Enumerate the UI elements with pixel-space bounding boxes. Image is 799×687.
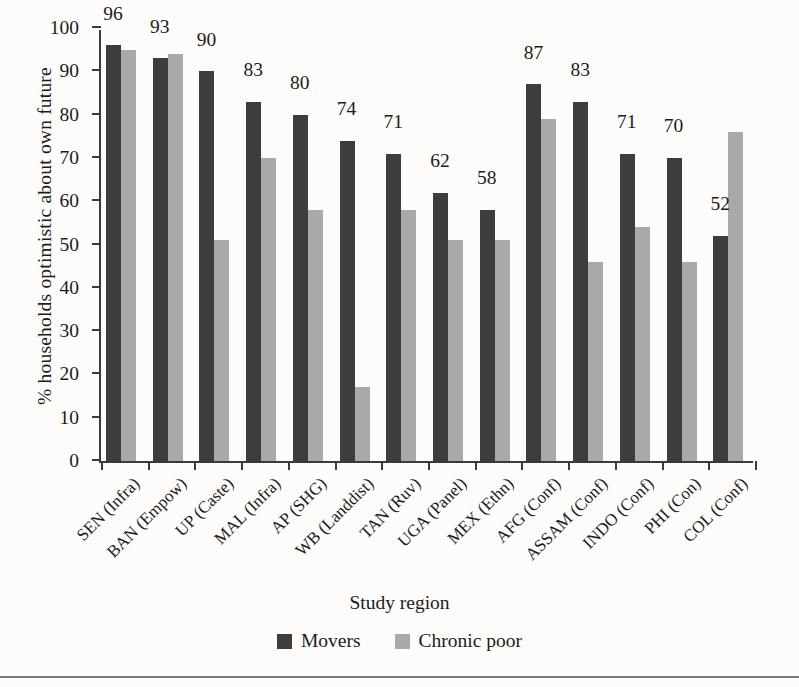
- bar-group: 83: [568, 30, 615, 461]
- y-tick-label: 70: [60, 146, 80, 168]
- legend-swatch-movers: [277, 634, 292, 649]
- bar-group: 90: [194, 30, 241, 461]
- bar-value-label: 58: [477, 168, 497, 188]
- bar-group: 71: [615, 30, 662, 461]
- bar-group: 83: [241, 30, 288, 461]
- x-tick: [148, 461, 150, 470]
- x-tick: [335, 461, 337, 470]
- bottom-rule: [0, 676, 799, 678]
- bar-group: 80: [288, 30, 335, 461]
- y-tick: 100: [92, 26, 101, 28]
- x-tick: [708, 461, 710, 470]
- bar-chronic-poor: [308, 210, 323, 461]
- bar-movers: [106, 45, 121, 461]
- bar-movers: [153, 58, 168, 461]
- bar-chronic-poor: [448, 240, 463, 461]
- y-tick-label: 90: [60, 60, 80, 82]
- bar-value-label: 74: [337, 99, 357, 119]
- bar-value-label: 90: [197, 29, 217, 49]
- bar-value-label: 62: [430, 151, 450, 171]
- legend-label: Chronic poor: [419, 630, 522, 652]
- bar-group: 96: [101, 30, 148, 461]
- y-axis-title: % households optimistic about own future: [34, 1, 56, 471]
- bar-group: 74: [335, 30, 382, 461]
- x-tick: [615, 461, 617, 470]
- bar-movers: [386, 154, 401, 461]
- bar-chronic-poor: [355, 387, 370, 461]
- y-tick-label: 60: [60, 190, 80, 212]
- bar-movers: [199, 71, 214, 461]
- x-tick: [194, 461, 196, 470]
- bar-group: 93: [148, 30, 195, 461]
- bar-chronic-poor: [728, 132, 743, 461]
- bar-movers: [293, 115, 308, 461]
- bar-chronic-poor: [541, 119, 556, 461]
- bar-chronic-poor: [682, 262, 697, 461]
- y-tick: 40: [92, 286, 101, 288]
- bar-chronic-poor: [168, 54, 183, 461]
- y-tick-label: 0: [69, 450, 79, 472]
- bar-chronic-poor: [495, 240, 510, 461]
- bar-group: 71: [381, 30, 428, 461]
- x-tick: [475, 461, 477, 470]
- bar-value-label: 96: [103, 3, 123, 23]
- bar-value-label: 83: [243, 60, 263, 80]
- bar-movers: [713, 236, 728, 461]
- bar-group: 87: [521, 30, 568, 461]
- bar-chronic-poor: [635, 227, 650, 461]
- bar-value-label: 71: [384, 112, 404, 132]
- y-tick-label: 10: [60, 406, 80, 428]
- x-tick: [381, 461, 383, 470]
- legend-item: Chronic poor: [395, 630, 522, 652]
- legend-item: Movers: [277, 630, 361, 652]
- x-tick: [288, 461, 290, 470]
- bar-chronic-poor: [121, 50, 136, 461]
- y-tick: 10: [92, 416, 101, 418]
- bar-value-label: 87: [524, 42, 544, 62]
- bar-chart-figure: % households optimistic about own future…: [0, 0, 799, 687]
- bar-chronic-poor: [588, 262, 603, 461]
- x-axis-title: Study region: [0, 592, 799, 614]
- legend-swatch-chronic: [395, 634, 410, 649]
- y-tick-label: 50: [60, 233, 80, 255]
- chart-legend: MoversChronic poor: [0, 630, 799, 652]
- bar-value-label: 80: [290, 73, 310, 93]
- y-tick-label: 40: [60, 276, 80, 298]
- bar-value-label: 93: [150, 16, 170, 36]
- bar-group: 58: [475, 30, 522, 461]
- y-tick: 0: [92, 459, 101, 461]
- y-tick-label: 100: [50, 17, 79, 39]
- y-tick-label: 20: [60, 363, 80, 385]
- bar-group: 62: [428, 30, 475, 461]
- y-tick: 20: [92, 372, 101, 374]
- bar-chronic-poor: [401, 210, 416, 461]
- y-tick: 50: [92, 243, 101, 245]
- legend-label: Movers: [301, 630, 361, 652]
- bar-movers: [573, 102, 588, 461]
- bar-movers: [433, 193, 448, 461]
- bar-chronic-poor: [214, 240, 229, 461]
- bar-movers: [620, 154, 635, 461]
- x-tick: [241, 461, 243, 470]
- bar-movers: [526, 84, 541, 461]
- x-tick: [428, 461, 430, 470]
- y-tick: 80: [92, 113, 101, 115]
- y-tick: 70: [92, 156, 101, 158]
- bar-value-label: 71: [617, 112, 637, 132]
- bar-value-label: 52: [711, 194, 731, 214]
- bar-group: 70: [662, 30, 709, 461]
- x-tick: [662, 461, 664, 470]
- y-tick-label: 30: [60, 320, 80, 342]
- plot-area: 0102030405060708090100 96939083807471625…: [99, 30, 753, 463]
- y-tick: 90: [92, 69, 101, 71]
- bar-movers: [667, 158, 682, 461]
- x-tick: [101, 461, 103, 470]
- bar-chronic-poor: [261, 158, 276, 461]
- bar-value-label: 70: [664, 116, 684, 136]
- bar-value-label: 83: [570, 60, 590, 80]
- bar-movers: [246, 102, 261, 461]
- bar-movers: [480, 210, 495, 461]
- bar-movers: [340, 141, 355, 461]
- y-tick-label: 80: [60, 103, 80, 125]
- x-tick: [755, 461, 757, 470]
